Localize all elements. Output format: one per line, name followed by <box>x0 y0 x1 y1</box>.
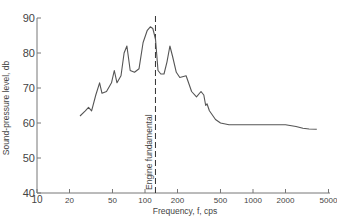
annotations: Engine fundamental <box>144 16 155 193</box>
x-tick-label: 500 <box>214 196 228 205</box>
y-tick-label: 70 <box>23 82 35 94</box>
x-tick-label: 10 <box>31 194 43 205</box>
x-tick-label: 50 <box>108 196 117 205</box>
y-tick-label: 60 <box>23 117 35 129</box>
chart-container: 405060708090 102050100200500100020005000… <box>0 0 337 220</box>
x-axis-label: Frequency, f, cps <box>153 206 218 216</box>
y-tick-label: 50 <box>23 152 35 164</box>
axes <box>37 18 330 193</box>
x-tick-label: 2000 <box>277 196 295 205</box>
y-axis-label: Sound-pressure level, db <box>1 60 11 155</box>
spectrum-line <box>80 27 317 130</box>
x-tick-label: 100 <box>138 196 152 205</box>
x-ticks: 102050100200500100020005000 <box>31 189 337 205</box>
y-tick-label: 90 <box>23 12 35 24</box>
y-tick-label: 80 <box>23 47 35 59</box>
x-tick-label: 5000 <box>320 196 337 205</box>
x-tick-label: 200 <box>171 196 185 205</box>
x-tick-label: 1000 <box>244 196 262 205</box>
engine-fundamental-label: Engine fundamental <box>144 114 154 190</box>
y-ticks: 405060708090 <box>23 12 41 199</box>
x-tick-label: 20 <box>65 196 74 205</box>
